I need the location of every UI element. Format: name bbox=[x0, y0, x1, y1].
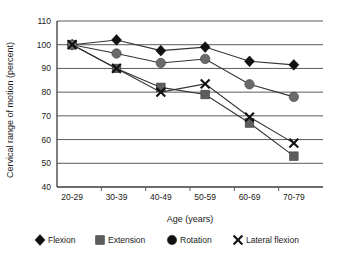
y-tick-label: 90 bbox=[42, 63, 52, 73]
legend-item-rotation: Rotation bbox=[167, 235, 212, 245]
x-tick-label: 30-39 bbox=[106, 192, 128, 202]
y-tick-label: 110 bbox=[37, 16, 51, 26]
y-tick-labels: 405060708090100110 bbox=[37, 16, 51, 192]
legend-item-lateral-flexion: Lateral flexion bbox=[234, 235, 300, 245]
y-tick-label: 50 bbox=[42, 158, 52, 168]
legend-label: Rotation bbox=[180, 235, 212, 245]
y-tick-label: 70 bbox=[42, 111, 52, 121]
data-point bbox=[201, 79, 210, 88]
x-tick-labels: 20-2930-3940-4950-5960-6970-79 bbox=[61, 192, 305, 202]
legend-label: Lateral flexion bbox=[246, 235, 299, 245]
chart-canvas: 405060708090100110 20-2930-3940-4950-596… bbox=[0, 0, 338, 254]
legend-marker-square bbox=[96, 236, 105, 245]
data-series-layer bbox=[67, 35, 299, 161]
series-line bbox=[72, 45, 294, 97]
data-point bbox=[156, 45, 166, 56]
series-flexion bbox=[67, 35, 299, 71]
grid-layer bbox=[57, 21, 323, 187]
data-point bbox=[245, 56, 255, 67]
data-point bbox=[289, 92, 298, 101]
x-axis-title: Age (years) bbox=[167, 214, 214, 224]
x-tick-label: 60-69 bbox=[239, 192, 261, 202]
y-tick-label: 80 bbox=[42, 87, 52, 97]
data-point bbox=[290, 152, 299, 161]
x-tick-label: 20-29 bbox=[61, 192, 83, 202]
y-tick-label: 100 bbox=[37, 40, 51, 50]
axes-layer bbox=[57, 21, 323, 191]
data-point bbox=[245, 80, 254, 89]
y-axis-title: Cervical range of motion (percent) bbox=[5, 42, 15, 178]
data-point bbox=[201, 90, 210, 99]
legend-marker-circle bbox=[167, 235, 176, 244]
series-extension bbox=[68, 40, 298, 160]
data-point bbox=[156, 58, 165, 67]
y-tick-label: 40 bbox=[42, 182, 52, 192]
x-tick-label: 70-79 bbox=[283, 192, 305, 202]
legend-marker-x bbox=[234, 236, 243, 245]
legend-label: Extension bbox=[108, 235, 146, 245]
legend-item-extension: Extension bbox=[96, 235, 146, 245]
legend-marker-diamond bbox=[35, 235, 45, 246]
chart-legend: FlexionExtensionRotationLateral flexion bbox=[35, 235, 299, 246]
legend-label: Flexion bbox=[48, 235, 76, 245]
legend-item-flexion: Flexion bbox=[35, 235, 76, 246]
x-tick-label: 40-49 bbox=[150, 192, 172, 202]
x-tick-label: 50-59 bbox=[194, 192, 216, 202]
data-point bbox=[200, 42, 210, 53]
data-point bbox=[112, 35, 122, 46]
data-point bbox=[112, 49, 121, 58]
series-line bbox=[72, 45, 294, 143]
cervical-rom-line-chart: 405060708090100110 20-2930-3940-4950-596… bbox=[0, 0, 338, 254]
data-point bbox=[200, 54, 209, 63]
y-tick-label: 60 bbox=[42, 135, 52, 145]
series-lateral-flexion bbox=[68, 40, 298, 147]
